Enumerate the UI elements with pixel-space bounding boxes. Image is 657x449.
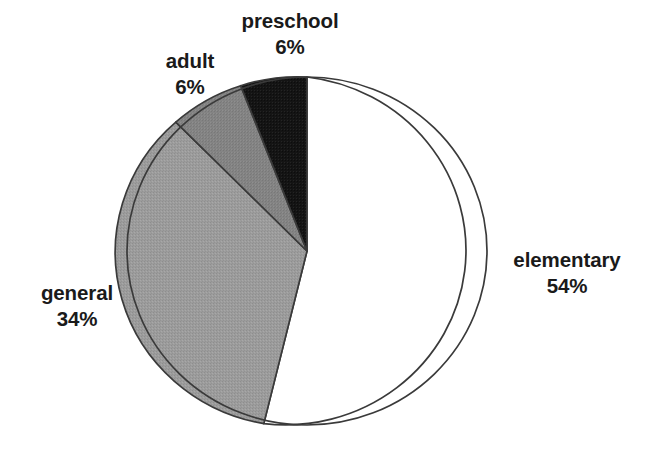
pie-label-preschool-value: 6% xyxy=(241,34,338,60)
pie-label-adult: adult 6% xyxy=(166,48,214,100)
pie-chart-figure: preschool 6% adult 6% general 34% elemen… xyxy=(0,0,657,449)
pie-chart-graphic xyxy=(0,0,657,449)
pie-label-preschool: preschool 6% xyxy=(241,8,338,60)
pie-label-elementary-name: elementary xyxy=(513,247,620,273)
pie-label-general-name: general xyxy=(41,280,113,306)
pie-label-adult-value: 6% xyxy=(166,74,214,100)
pie-label-preschool-name: preschool xyxy=(241,8,338,34)
pie-label-general-value: 34% xyxy=(41,306,113,332)
pie-label-adult-name: adult xyxy=(166,48,214,74)
pie-label-elementary: elementary 54% xyxy=(513,247,620,299)
pie-label-general: general 34% xyxy=(41,280,113,332)
pie-label-elementary-value: 54% xyxy=(513,273,620,299)
